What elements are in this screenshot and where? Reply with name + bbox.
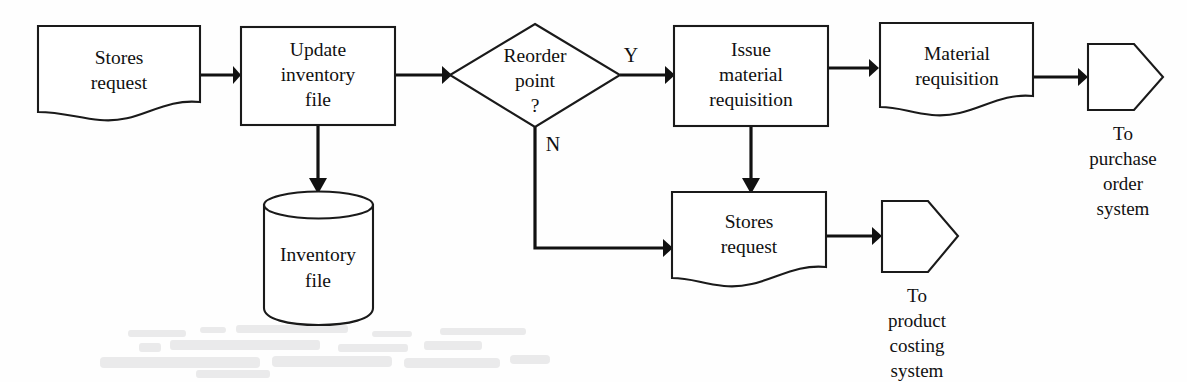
material-requisition-line2: requisition — [915, 68, 999, 89]
stores-request-input-line1: Stores — [95, 47, 144, 68]
edge-issue-to-material-requisition — [828, 59, 879, 77]
node-update-inventory-file[interactable]: Update inventory file — [241, 27, 395, 125]
reorder-point-line2: point — [515, 70, 556, 91]
edge-stores-request-to-update — [200, 66, 241, 84]
inventory-file-line2: file — [305, 270, 331, 291]
node-material-requisition-document[interactable]: Material requisition — [880, 23, 1033, 115]
issue-material-line1: Issue — [731, 39, 771, 60]
edge-issue-to-stores-request — [742, 126, 760, 194]
costing-caption-line3: costing — [890, 335, 945, 356]
edge-reorder-yes-to-issue — [620, 66, 675, 84]
costing-caption-line1: To — [907, 285, 927, 306]
edge-material-requisition-to-purchase — [1033, 68, 1088, 86]
node-inventory-file[interactable]: Inventory file — [264, 192, 373, 326]
stores-request-output-line1: Stores — [725, 211, 774, 232]
material-requisition-line1: Material — [924, 43, 991, 64]
reorder-point-line3: ? — [531, 95, 540, 116]
edge-stores-request-to-costing — [826, 227, 882, 245]
node-to-product-costing-connector[interactable]: To product costing system — [882, 201, 958, 381]
update-inventory-line3: file — [305, 89, 331, 110]
edge-update-to-inventory-file — [309, 125, 327, 194]
node-stores-request-input[interactable]: Stores request — [38, 26, 200, 120]
flowchart-canvas: Stores request Update inventory file Inv… — [0, 0, 1187, 382]
node-reorder-point-decision[interactable]: Reorder point ? — [450, 24, 620, 127]
node-stores-request-output[interactable]: Stores request — [672, 192, 826, 286]
update-inventory-line1: Update — [290, 39, 346, 60]
node-to-purchase-order-connector[interactable]: To purchase order system — [1088, 44, 1163, 219]
update-inventory-line2: inventory — [281, 64, 356, 85]
edge-update-to-reorder — [395, 66, 452, 84]
purchase-caption-line4: system — [1097, 198, 1150, 219]
node-issue-material-requisition[interactable]: Issue material requisition — [674, 26, 828, 126]
issue-material-line3: requisition — [709, 89, 793, 110]
purchase-caption-line1: To — [1113, 123, 1133, 144]
branch-label-yes: Y — [624, 44, 638, 66]
costing-caption-line4: system — [891, 360, 944, 381]
purchase-caption-line3: order — [1103, 173, 1144, 194]
issue-material-line2: material — [719, 64, 783, 85]
stores-request-input-line2: request — [91, 72, 148, 93]
purchase-caption-line2: purchase — [1089, 148, 1157, 169]
flowchart-svg: Stores request Update inventory file Inv… — [0, 0, 1187, 382]
branch-label-no: N — [546, 133, 560, 155]
inventory-file-line1: Inventory — [280, 244, 356, 265]
reorder-point-line1: Reorder — [504, 45, 567, 66]
stores-request-output-line2: request — [721, 236, 778, 257]
scan-artifacts — [100, 325, 550, 378]
costing-caption-line2: product — [888, 310, 947, 331]
